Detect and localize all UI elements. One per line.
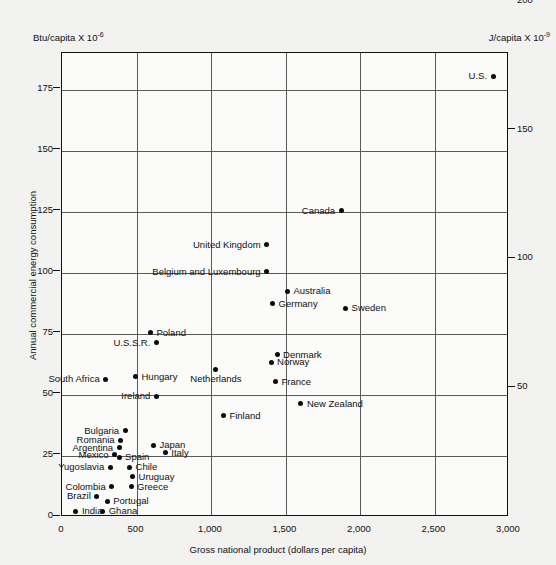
x-axis-tick: 2,000 — [329, 523, 389, 534]
data-point-label: South Africa — [0, 373, 100, 384]
data-point-label: Greece — [137, 481, 168, 492]
y-axis-tick-right: 200 — [508, 0, 552, 5]
left-axis-unit-label: Btu/capita X 10-6 — [33, 31, 104, 43]
gridline-horizontal — [62, 90, 507, 91]
data-point[interactable] — [123, 428, 128, 433]
gridline-vertical — [137, 53, 138, 515]
data-point[interactable] — [117, 455, 122, 460]
data-point-label: United Kingdom — [61, 239, 261, 250]
y-axis-tick-left: 175 — [13, 82, 53, 93]
right-axis-unit-label: J/capita X 10-9 — [489, 31, 550, 43]
y-axis-tick-right: 100 — [508, 251, 552, 262]
data-point-label: Ghana — [109, 505, 138, 516]
data-point-label: U.S. — [287, 70, 487, 81]
data-point-label: Sweden — [352, 302, 386, 313]
x-axis-title: Gross national product (dollars per capi… — [0, 544, 556, 555]
data-point-label: Belgium and Luxembourg — [61, 266, 261, 277]
data-point-label: Yugoslavia — [0, 461, 104, 472]
data-point[interactable] — [151, 443, 156, 448]
data-point-label: Brazil — [0, 490, 91, 501]
x-axis-tick: 0 — [31, 523, 91, 534]
y-axis-tick-right: 150 — [508, 123, 552, 134]
data-point-label: Poland — [156, 327, 186, 338]
data-point[interactable] — [118, 438, 123, 443]
data-point-label: Hungary — [142, 371, 178, 382]
x-axis-tick: 1,000 — [180, 523, 240, 534]
y-axis-tick-left: 75 — [13, 326, 53, 337]
y-axis-tick-left: 0 — [13, 509, 53, 520]
x-axis-tick: 1,500 — [255, 523, 315, 534]
data-point-label: Australia — [293, 285, 330, 296]
data-point[interactable] — [285, 289, 290, 294]
gridline-vertical — [435, 53, 436, 515]
plot-area — [61, 52, 508, 516]
data-point-label: Finland — [229, 410, 260, 421]
data-point[interactable] — [108, 465, 113, 470]
x-axis-tick: 2,500 — [404, 523, 464, 534]
data-point[interactable] — [343, 306, 348, 311]
gridline-vertical — [211, 53, 212, 515]
gridline-horizontal — [62, 334, 507, 335]
data-point-label: France — [282, 376, 312, 387]
data-point[interactable] — [127, 465, 132, 470]
data-point-label: India — [82, 505, 103, 516]
data-point-label: Ireland — [0, 390, 150, 401]
data-point-label: Mexico — [0, 449, 109, 460]
gridline-vertical — [360, 53, 361, 515]
data-point[interactable] — [154, 340, 159, 345]
data-point[interactable] — [491, 74, 496, 79]
data-point-label: Italy — [171, 447, 188, 458]
data-point-label: New Zealand — [307, 398, 363, 409]
data-point[interactable] — [163, 450, 168, 455]
gridline-horizontal — [62, 151, 507, 152]
data-point-label: Norway — [277, 356, 309, 367]
data-point[interactable] — [269, 360, 274, 365]
x-axis-tick: 500 — [106, 523, 166, 534]
data-point-label: U.S.S.R. — [0, 337, 150, 348]
y-axis-tick-left: 100 — [13, 265, 53, 276]
data-point[interactable] — [154, 394, 159, 399]
y-axis-tick-left: 125 — [13, 204, 53, 215]
data-point[interactable] — [339, 208, 344, 213]
y-axis-tick-right: 50 — [508, 380, 552, 391]
data-point[interactable] — [117, 445, 122, 450]
x-axis-tick: 3,000 — [478, 523, 538, 534]
gridline-vertical — [286, 53, 287, 515]
data-point[interactable] — [105, 499, 110, 504]
y-axis-tick-left: 150 — [13, 143, 53, 154]
data-point-label: Germany — [279, 298, 318, 309]
data-point[interactable] — [103, 377, 108, 382]
data-point-label: Canada — [135, 205, 335, 216]
data-point[interactable] — [129, 484, 134, 489]
scatter-chart: Btu/capita X 10-6 J/capita X 10-9 Annual… — [0, 0, 556, 565]
